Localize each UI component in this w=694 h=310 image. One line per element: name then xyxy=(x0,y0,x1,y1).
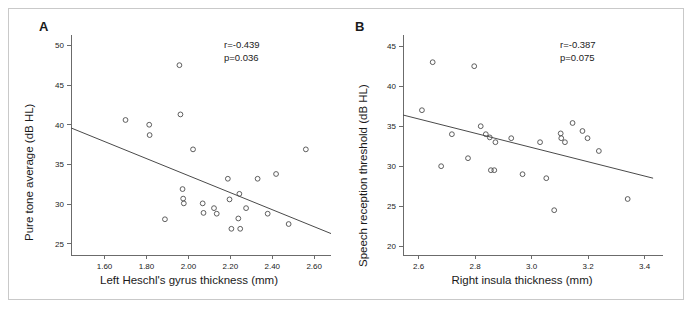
data-point xyxy=(265,211,270,216)
panel-b-y-axis-title: Speech reception threshold (dB HL) xyxy=(357,84,369,267)
data-point xyxy=(493,140,498,145)
y-tick-label: 40 xyxy=(387,82,396,91)
data-point xyxy=(478,124,483,129)
data-point xyxy=(200,201,205,206)
y-tick-label: 40 xyxy=(55,121,64,130)
data-point xyxy=(191,147,196,152)
panel-a-x-axis-title: Left Heschl's gyrus thickness (mm) xyxy=(49,274,329,286)
data-point xyxy=(178,112,183,117)
data-point xyxy=(177,63,182,68)
x-tick-label: 1.60 xyxy=(97,262,113,271)
figure-root: A r=-0.439 p=0.036 2530354045501.601.802… xyxy=(0,0,694,310)
x-tick-label: 3.2 xyxy=(583,262,595,271)
data-point xyxy=(570,121,575,126)
data-point xyxy=(180,187,185,192)
data-point xyxy=(492,168,497,173)
data-point xyxy=(466,156,471,161)
data-point xyxy=(563,140,568,145)
data-point xyxy=(163,217,168,222)
panel-b: B r=-0.387 p=0.075 2025303540452.62.83.0… xyxy=(347,9,685,301)
data-point xyxy=(214,211,219,216)
y-tick-label: 25 xyxy=(387,202,396,211)
data-point xyxy=(520,172,525,177)
y-tick-label: 35 xyxy=(55,160,64,169)
x-tick-label: 3.4 xyxy=(639,262,651,271)
regression-line xyxy=(71,128,331,234)
data-point xyxy=(123,118,128,123)
x-tick-label: 1.80 xyxy=(139,262,155,271)
y-tick-label: 30 xyxy=(55,200,64,209)
panel-a: A r=-0.439 p=0.036 2530354045501.601.802… xyxy=(9,9,347,301)
x-tick-label: 2.60 xyxy=(306,262,322,271)
figure-frame: A r=-0.439 p=0.036 2530354045501.601.802… xyxy=(8,8,684,300)
data-point xyxy=(625,197,630,202)
panel-b-plot: 2025303540452.62.83.03.23.4 xyxy=(347,9,685,301)
data-point xyxy=(538,140,543,145)
data-point xyxy=(558,131,563,136)
data-point xyxy=(286,222,291,227)
data-point xyxy=(236,216,241,221)
data-point xyxy=(430,60,435,65)
data-point xyxy=(449,132,454,137)
data-point xyxy=(147,122,152,127)
data-point xyxy=(238,226,243,231)
data-point xyxy=(472,64,477,69)
data-point xyxy=(229,226,234,231)
data-point xyxy=(227,197,232,202)
data-point xyxy=(439,164,444,169)
data-point xyxy=(274,172,279,177)
x-tick-label: 2.00 xyxy=(181,262,197,271)
data-point xyxy=(544,176,549,181)
data-point xyxy=(147,133,152,138)
data-point xyxy=(201,211,206,216)
data-point xyxy=(255,176,260,181)
x-tick-label: 2.8 xyxy=(470,262,482,271)
data-point xyxy=(596,149,601,154)
y-tick-label: 50 xyxy=(55,41,64,50)
data-point xyxy=(212,206,217,211)
x-tick-label: 3.0 xyxy=(526,262,538,271)
y-tick-label: 25 xyxy=(55,240,64,249)
data-point xyxy=(303,147,308,152)
y-tick-label: 30 xyxy=(387,162,396,171)
x-tick-label: 2.40 xyxy=(265,262,281,271)
y-tick-label: 45 xyxy=(387,42,396,51)
data-point xyxy=(225,176,230,181)
data-point xyxy=(181,196,186,201)
panel-a-plot: 2530354045501.601.802.002.202.402.60 xyxy=(9,9,347,301)
x-tick-label: 2.20 xyxy=(223,262,239,271)
y-tick-label: 20 xyxy=(387,242,396,251)
data-point xyxy=(181,201,186,206)
y-tick-label: 45 xyxy=(55,81,64,90)
data-point xyxy=(585,136,590,141)
data-point xyxy=(509,136,514,141)
data-point xyxy=(244,206,249,211)
data-point xyxy=(580,129,585,134)
data-point xyxy=(237,191,242,196)
panel-a-y-axis-title: Pure tone average (dB HL) xyxy=(23,104,35,241)
y-tick-label: 35 xyxy=(387,122,396,131)
x-tick-label: 2.6 xyxy=(413,262,425,271)
data-point xyxy=(552,208,557,213)
panel-b-x-axis-title: Right insula thickness (mm) xyxy=(382,274,662,286)
data-point xyxy=(420,108,425,113)
data-point xyxy=(559,136,564,141)
